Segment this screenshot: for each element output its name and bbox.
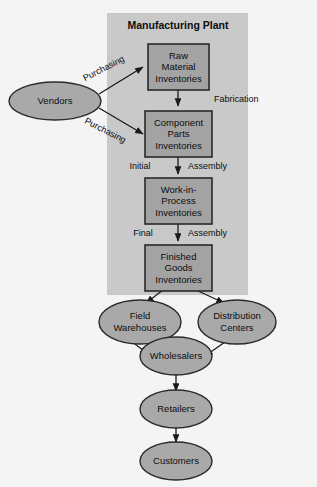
work-in-process-inventories-line2: Process: [161, 195, 196, 206]
node-retailers[interactable]: Retailers: [140, 390, 212, 428]
edge-label-fabrication: Fabrication: [214, 94, 259, 104]
node-component-parts-inventories[interactable]: Component Parts Inventories: [145, 111, 212, 157]
distribution-centers-line2: Centers: [220, 322, 254, 333]
supply-chain-diagram: Manufacturing Plant Raw Material: [0, 0, 317, 487]
field-warehouses-line1: Field: [130, 310, 151, 321]
vendors-label: Vendors: [38, 95, 73, 106]
node-finished-goods-inventories[interactable]: Finished Goods Inventories: [145, 245, 212, 291]
raw-material-inventories-line2: Material: [162, 61, 196, 72]
distribution-centers-line1: Distribution: [213, 310, 261, 321]
edge-label-final-assembly: Assembly: [188, 228, 228, 238]
component-parts-inventories-line2: Parts: [167, 128, 189, 139]
node-distribution-centers[interactable]: Distribution Centers: [198, 300, 276, 344]
retailers-label: Retailers: [157, 403, 195, 414]
node-customers[interactable]: Customers: [140, 442, 212, 480]
raw-material-inventories-line3: Inventories: [155, 73, 202, 84]
finished-goods-inventories-line1: Finished: [161, 251, 197, 262]
finished-goods-inventories-line2: Goods: [165, 262, 193, 273]
customers-label: Customers: [153, 455, 199, 466]
edge-label-final: Final: [133, 228, 153, 238]
edge-label-initial: Initial: [129, 161, 150, 171]
node-wholesalers[interactable]: Wholesalers: [140, 337, 212, 375]
node-raw-material-inventories[interactable]: Raw Material Inventories: [148, 44, 209, 90]
diagram-canvas: Manufacturing Plant Raw Material: [0, 0, 317, 487]
field-warehouses-line2: Warehouses: [114, 322, 167, 333]
work-in-process-inventories-line1: Work-in-: [161, 184, 197, 195]
work-in-process-inventories-line3: Inventories: [155, 207, 202, 218]
finished-goods-inventories-line3: Inventories: [155, 274, 202, 285]
wholesalers-label: Wholesalers: [150, 350, 203, 361]
edge-label-initial-assembly: Assembly: [188, 161, 228, 171]
component-parts-inventories-line3: Inventories: [155, 140, 202, 151]
raw-material-inventories-line1: Raw: [169, 50, 188, 61]
node-work-in-process-inventories[interactable]: Work-in- Process Inventories: [145, 178, 212, 224]
component-parts-inventories-line1: Component: [154, 117, 203, 128]
panel-title: Manufacturing Plant: [128, 19, 229, 31]
node-vendors[interactable]: Vendors: [9, 82, 101, 120]
